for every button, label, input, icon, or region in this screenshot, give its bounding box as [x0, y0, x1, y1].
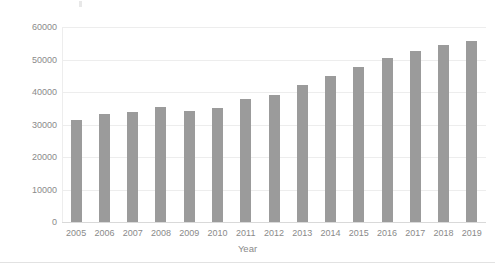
bar [212, 108, 223, 222]
x-tick-label: 2006 [94, 228, 114, 238]
x-tick-label: 2008 [151, 228, 171, 238]
x-tick-label: 2009 [179, 228, 199, 238]
y-tick-label: 60000 [32, 23, 57, 32]
y-tick-label: 40000 [32, 88, 57, 97]
x-tick-label: 2011 [236, 228, 255, 238]
y-tick-label: 20000 [32, 153, 57, 162]
x-tick-label: 2015 [349, 228, 369, 238]
gridline [62, 27, 486, 28]
x-tick-label: 2014 [321, 228, 341, 238]
bar [184, 111, 195, 222]
bar [325, 76, 336, 222]
x-tick-label: 2010 [207, 228, 227, 238]
bar [353, 67, 364, 222]
bar [99, 114, 110, 222]
x-axis-title: Year [0, 243, 495, 254]
bar [466, 41, 477, 222]
bar [127, 112, 138, 222]
gridline [62, 60, 486, 61]
bar-chart-figure: Expenditure in Million GBP 0100002000030… [0, 0, 495, 271]
x-tick-label: 2017 [405, 228, 425, 238]
x-tick-label: 2018 [434, 228, 454, 238]
x-axis-baseline [62, 222, 486, 223]
page-bottom-rule [0, 262, 495, 263]
bar [240, 99, 251, 222]
top-edge-artifact [79, 1, 82, 7]
y-tick-label: 30000 [32, 120, 57, 129]
x-tick-label: 2012 [264, 228, 284, 238]
x-tick-label: 2019 [462, 228, 482, 238]
y-tick-label: 0 [52, 218, 57, 227]
bar [438, 45, 449, 222]
bar [155, 107, 166, 222]
bar [269, 95, 280, 222]
bar [410, 51, 421, 222]
bar [382, 58, 393, 222]
bar [297, 85, 308, 222]
x-tick-label: 2013 [292, 228, 312, 238]
x-tick-label: 2016 [377, 228, 397, 238]
x-tick-label: 2005 [66, 228, 86, 238]
gridline [62, 92, 486, 93]
plot-area: 0100002000030000400005000060000 20052006… [62, 27, 486, 222]
x-tick-label: 2007 [123, 228, 143, 238]
y-tick-label: 10000 [32, 185, 57, 194]
y-tick-label: 50000 [32, 55, 57, 64]
bar [71, 120, 82, 222]
